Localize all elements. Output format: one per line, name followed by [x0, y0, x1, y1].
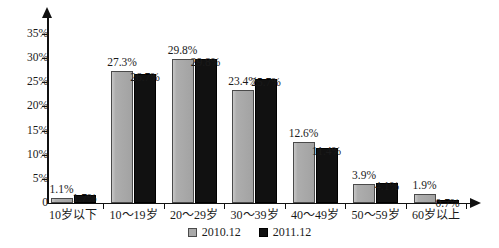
x-axis-category-label: 10岁以下 — [39, 208, 107, 222]
y-axis-tick-label: 10% — [8, 149, 48, 161]
bar-value-label: 27.3% — [101, 56, 143, 68]
bar-value-label: 11.4% — [306, 145, 348, 157]
bar-value-label: 0.7% — [427, 197, 469, 209]
x-axis-category-label: 30～39岁 — [221, 208, 289, 222]
bar-value-label: 4.1% — [366, 180, 408, 192]
legend-item-2010.12[interactable]: 2010.12 — [188, 226, 241, 238]
bar-2010.12-10～19岁 — [111, 71, 133, 203]
legend-swatch-icon — [259, 228, 268, 237]
bar-value-label: 25.7% — [245, 76, 287, 88]
y-axis-tick-label: 30% — [8, 52, 48, 64]
bar-chart: 05%10%15%20%25%30%35% 1.1%1.7%27.3%26.7%… — [0, 0, 499, 248]
bar-value-label: 29.8% — [162, 44, 204, 56]
y-axis-tick-label: 15% — [8, 125, 48, 137]
bar-2011.12-10～19岁 — [134, 74, 156, 203]
legend-swatch-icon — [188, 228, 197, 237]
x-axis-arrow-icon — [470, 198, 481, 208]
bar-value-label: 12.6% — [283, 127, 325, 139]
x-axis-category-label: 60岁以上 — [402, 208, 470, 222]
bar-2010.12-30～39岁 — [232, 90, 254, 203]
y-axis-tick-label: 25% — [8, 76, 48, 88]
bar-value-label: 1.9% — [404, 179, 446, 191]
bar-2010.12-20～29岁 — [172, 59, 194, 203]
y-axis-tick-label: 0 — [8, 197, 48, 209]
bar-value-label: 1.7% — [64, 192, 106, 204]
legend-label: 2011.12 — [273, 226, 312, 238]
y-axis-tick-label: 35% — [8, 28, 48, 40]
legend: 2010.122011.12 — [0, 226, 499, 238]
bar-value-label: 29.8% — [185, 56, 227, 68]
x-axis-category-label: 10～19岁 — [100, 208, 168, 222]
y-axis-arrow-icon — [42, 7, 52, 18]
bar-value-label: 26.7% — [124, 71, 166, 83]
legend-label: 2010.12 — [202, 226, 241, 238]
y-axis-tick-label: 20% — [8, 100, 48, 112]
bar-2011.12-20～29岁 — [195, 59, 217, 203]
bar-2011.12-30～39岁 — [255, 79, 277, 203]
x-axis-category-label: 40～49岁 — [281, 208, 349, 222]
legend-item-2011.12[interactable]: 2011.12 — [259, 226, 312, 238]
x-axis-category-label: 50～59岁 — [342, 208, 410, 222]
x-axis-category-label: 20～29岁 — [160, 208, 228, 222]
